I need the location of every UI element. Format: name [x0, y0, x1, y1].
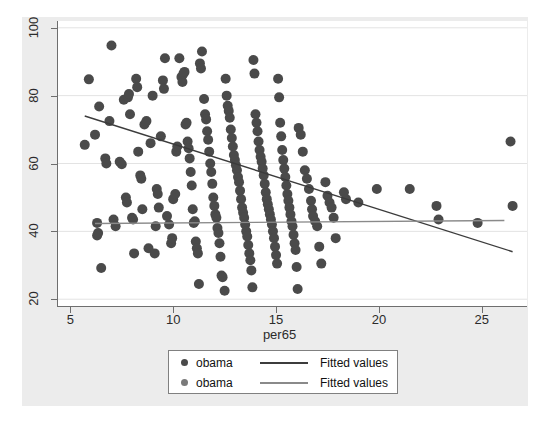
- data-point: [372, 184, 382, 194]
- data-points-layer: [80, 40, 518, 295]
- data-point: [207, 179, 217, 189]
- data-point: [193, 248, 203, 258]
- data-point: [199, 94, 209, 104]
- y-axis-line: [57, 21, 58, 307]
- data-point: [222, 91, 232, 101]
- data-point: [246, 265, 256, 275]
- data-point: [129, 248, 139, 258]
- legend-line-label: Fitted values: [320, 376, 388, 390]
- plot-area: [58, 21, 527, 306]
- data-point: [148, 91, 158, 101]
- data-point: [187, 181, 197, 191]
- data-point: [84, 74, 94, 84]
- y-tick-label: 40: [26, 216, 41, 246]
- data-point: [197, 47, 207, 57]
- data-point: [170, 189, 180, 199]
- data-point: [201, 114, 211, 124]
- data-point: [272, 259, 282, 269]
- data-point: [124, 89, 134, 99]
- data-point: [260, 179, 270, 189]
- x-tick-label: 10: [153, 312, 193, 327]
- data-point: [186, 167, 196, 177]
- data-point: [177, 77, 187, 87]
- data-point: [216, 252, 226, 262]
- data-point: [293, 284, 303, 294]
- x-tick-label: 5: [50, 312, 90, 327]
- y-tick-label: 20: [26, 284, 41, 314]
- data-point: [269, 233, 279, 243]
- y-tick-mark: [51, 28, 57, 29]
- data-point: [220, 286, 230, 296]
- data-point: [185, 153, 195, 163]
- data-point: [296, 130, 306, 140]
- data-point: [209, 201, 219, 211]
- data-point: [227, 133, 237, 143]
- data-point: [320, 177, 330, 187]
- data-point: [306, 196, 316, 206]
- data-point: [153, 189, 163, 199]
- data-point: [250, 109, 260, 119]
- data-point: [80, 140, 90, 150]
- data-point: [434, 214, 444, 224]
- data-point: [203, 135, 213, 145]
- data-point: [150, 248, 160, 258]
- data-point: [276, 131, 286, 141]
- data-point: [234, 177, 244, 187]
- data-point: [279, 164, 289, 174]
- data-point: [206, 167, 216, 177]
- data-point: [274, 92, 284, 102]
- data-point: [248, 55, 258, 65]
- data-point: [245, 255, 255, 265]
- data-point: [281, 181, 291, 191]
- data-point: [125, 109, 135, 119]
- data-point: [131, 74, 141, 84]
- y-tick-label: 60: [26, 148, 41, 178]
- legend-line-icon: [260, 382, 308, 384]
- data-point: [94, 102, 104, 112]
- x-tick-label: 15: [256, 312, 296, 327]
- legend-row: obama Fitted values: [169, 352, 397, 373]
- data-point: [154, 203, 164, 213]
- data-point: [300, 165, 310, 175]
- data-point: [254, 136, 264, 146]
- data-point: [291, 245, 301, 255]
- chart-screenshot: 20406080100 510152025 per65 obama Fitted…: [0, 0, 559, 426]
- data-point: [205, 159, 215, 169]
- scatter-plot-svg: [58, 21, 527, 306]
- y-tick-label: 80: [26, 80, 41, 110]
- data-point: [146, 138, 156, 148]
- data-point: [473, 218, 483, 228]
- data-point: [236, 194, 246, 204]
- data-point: [106, 40, 116, 50]
- data-point: [202, 126, 212, 136]
- data-point: [211, 213, 221, 223]
- y-tick-label: 100: [26, 12, 41, 42]
- data-point: [327, 203, 337, 213]
- data-point: [214, 238, 224, 248]
- x-axis-title: per65: [0, 327, 559, 342]
- legend-line-icon: [260, 362, 308, 364]
- data-point: [506, 136, 516, 146]
- data-point: [312, 221, 322, 231]
- data-point: [122, 198, 132, 208]
- legend-line-label: Fitted values: [320, 356, 388, 370]
- data-point: [93, 228, 103, 238]
- data-point: [136, 174, 146, 184]
- data-point: [243, 240, 253, 250]
- data-point: [196, 64, 206, 74]
- data-point: [405, 184, 415, 194]
- data-point: [314, 242, 324, 252]
- data-point: [278, 155, 288, 165]
- legend-row: obama Fitted values: [169, 372, 397, 393]
- data-point: [302, 174, 312, 184]
- data-point: [289, 230, 299, 240]
- y-tick-mark: [51, 299, 57, 300]
- data-point: [132, 82, 142, 92]
- data-point: [331, 233, 341, 243]
- data-point: [90, 130, 100, 140]
- data-point: [253, 126, 263, 136]
- data-point: [158, 75, 168, 85]
- data-point: [162, 211, 172, 221]
- data-point: [160, 53, 170, 63]
- data-point: [228, 142, 238, 152]
